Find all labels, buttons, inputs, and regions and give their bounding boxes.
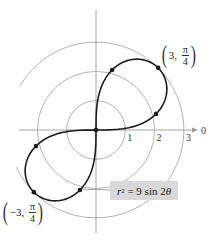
radial-tick-label: 3 [186, 132, 191, 143]
right-paren: ) [38, 199, 43, 225]
equation-label: r2 = 9 sin 2θ [110, 181, 178, 200]
comma: , [174, 50, 180, 61]
right-paren: ) [190, 42, 195, 68]
theta-numerator: π [182, 44, 189, 56]
radial-tick-label: 1 [127, 132, 132, 143]
eq-theta: θ [166, 185, 171, 197]
point-label-3-pi-over-4: ( 3, π 4 ) [160, 42, 197, 68]
curve-point [154, 112, 159, 117]
left-paren: ( [3, 199, 8, 225]
theta-numerator: π [29, 201, 36, 213]
theta-denominator: 4 [183, 56, 188, 67]
theta-fraction: π 4 [182, 44, 189, 67]
polar-axis-arrow-icon [192, 128, 198, 133]
curve-point [78, 188, 83, 193]
equation-leader-line [80, 189, 110, 190]
curve-point [34, 144, 39, 149]
radial-tick-labels: 123 [127, 132, 191, 143]
theta-denominator: 4 [30, 213, 35, 224]
eq-rhs: = 9 sin 2 [125, 185, 166, 197]
curve-point [110, 68, 115, 73]
radial-tick-label: 2 [157, 132, 162, 143]
curve-point [32, 190, 37, 195]
point-r-value: −3 [10, 207, 22, 218]
curve-point [94, 128, 99, 133]
comma: , [21, 207, 27, 218]
point-label-neg3-pi-over-4: ( −3, π 4 ) [1, 199, 45, 225]
polar-axis-label: 0 [201, 125, 206, 136]
theta-fraction: π 4 [29, 201, 36, 224]
left-paren: ( [162, 42, 167, 68]
